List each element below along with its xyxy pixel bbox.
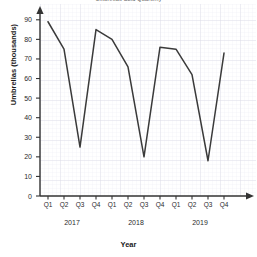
y-tick-label: 10 — [12, 173, 32, 180]
y-tick-label: 80 — [12, 36, 32, 43]
x-group-label: 2018 — [116, 219, 156, 226]
x-tick-label: Q4 — [214, 201, 234, 208]
line-chart: Umbrellas Sold Quarterly Umbrellas (thou… — [0, 0, 257, 257]
x-group-label: 2019 — [180, 219, 220, 226]
y-tick-label: 0 — [12, 193, 32, 200]
x-group-label: 2017 — [52, 219, 92, 226]
y-axis-tick-labels: 0102030405060708090 — [8, 0, 32, 257]
y-tick-label: 50 — [12, 95, 32, 102]
y-tick-label: 90 — [12, 16, 32, 23]
y-tick-label: 70 — [12, 55, 32, 62]
y-tick-label: 30 — [12, 134, 32, 141]
y-tick-label: 60 — [12, 75, 32, 82]
y-tick-label: 20 — [12, 153, 32, 160]
x-axis-label: Year — [0, 240, 257, 249]
chart-title: Umbrellas Sold Quarterly — [0, 0, 257, 2]
y-tick-label: 40 — [12, 114, 32, 121]
